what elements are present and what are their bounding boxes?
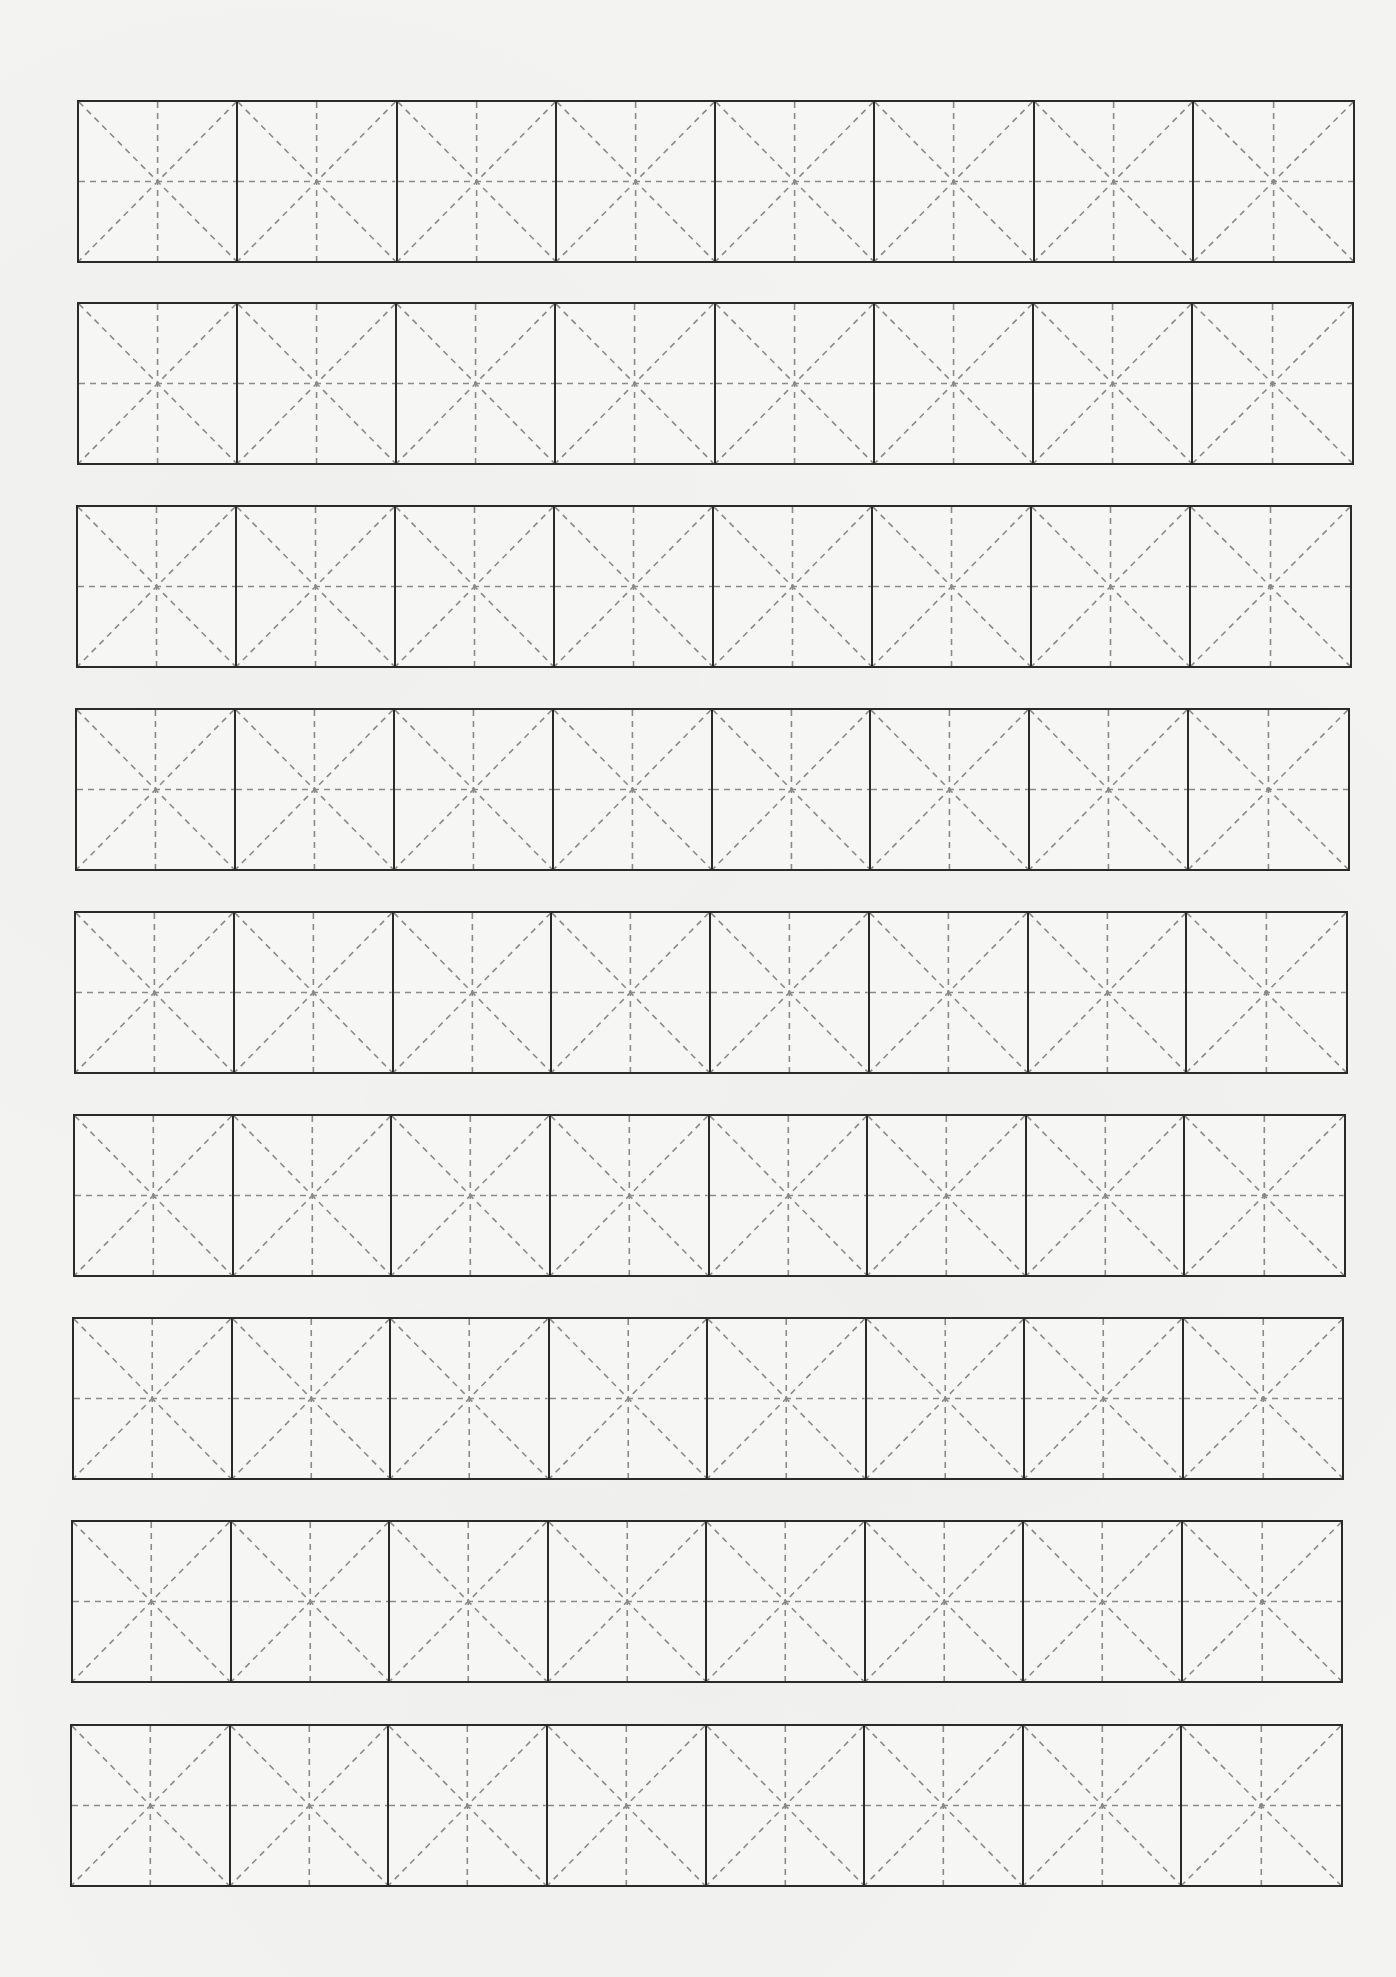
writing-cell[interactable]: [1185, 1116, 1344, 1275]
mi-grid-guide-icon: [235, 913, 392, 1072]
writing-cell[interactable]: [1025, 1319, 1184, 1478]
writing-cell[interactable]: [73, 1522, 232, 1681]
mi-grid-guide-icon: [75, 1116, 232, 1275]
mi-grid-guide-icon: [1189, 710, 1348, 869]
writing-cell[interactable]: [873, 507, 1032, 666]
mi-grid-guide-icon: [392, 1116, 549, 1275]
mi-grid-guide-icon: [875, 102, 1032, 261]
writing-cell[interactable]: [1024, 1522, 1183, 1681]
writing-cell[interactable]: [398, 102, 557, 261]
mi-grid-guide-icon: [79, 102, 236, 261]
writing-cell[interactable]: [78, 507, 237, 666]
writing-cell[interactable]: [237, 507, 396, 666]
mi-grid-guide-icon: [237, 507, 394, 666]
writing-cell[interactable]: [75, 1116, 234, 1275]
mi-grid-guide-icon: [1034, 304, 1191, 463]
writing-cell[interactable]: [711, 913, 870, 1072]
writing-cell[interactable]: [1029, 913, 1188, 1072]
writing-cell[interactable]: [867, 1319, 1026, 1478]
writing-cell[interactable]: [1189, 710, 1348, 869]
writing-cell[interactable]: [870, 913, 1029, 1072]
writing-cell[interactable]: [1027, 1116, 1186, 1275]
writing-cell[interactable]: [394, 913, 553, 1072]
writing-cell[interactable]: [392, 1116, 551, 1275]
writing-cell[interactable]: [1191, 507, 1350, 666]
writing-cell[interactable]: [549, 1522, 708, 1681]
mi-grid-guide-icon: [866, 1522, 1023, 1681]
writing-cell[interactable]: [557, 102, 716, 261]
writing-cell[interactable]: [79, 304, 238, 463]
writing-cell[interactable]: [234, 1116, 393, 1275]
mi-grid-guide-icon: [868, 1116, 1025, 1275]
writing-cell[interactable]: [716, 304, 875, 463]
mi-grid-guide-icon: [711, 913, 868, 1072]
writing-cell[interactable]: [866, 1522, 1025, 1681]
writing-cell[interactable]: [714, 507, 873, 666]
writing-cell[interactable]: [708, 1319, 867, 1478]
writing-cell[interactable]: [1034, 304, 1193, 463]
writing-cell[interactable]: [548, 1726, 707, 1885]
writing-cell[interactable]: [713, 710, 872, 869]
mi-grid-guide-icon: [391, 1319, 548, 1478]
writing-cell[interactable]: [707, 1522, 866, 1681]
writing-cell[interactable]: [232, 1522, 391, 1681]
mi-grid-guide-icon: [554, 710, 711, 869]
writing-cell[interactable]: [556, 304, 715, 463]
writing-cell[interactable]: [74, 1319, 233, 1478]
writing-cell[interactable]: [871, 710, 1030, 869]
mi-grid-guide-icon: [233, 1319, 390, 1478]
writing-cell[interactable]: [236, 710, 395, 869]
writing-cell[interactable]: [1182, 1726, 1341, 1885]
writing-cell[interactable]: [77, 710, 236, 869]
writing-cell[interactable]: [1024, 1726, 1183, 1885]
mi-grid-guide-icon: [1185, 1116, 1344, 1275]
writing-cell[interactable]: [555, 507, 714, 666]
writing-cell[interactable]: [1194, 102, 1353, 261]
writing-cell[interactable]: [865, 1726, 1024, 1885]
mi-grid-guide-icon: [1183, 1522, 1342, 1681]
mi-grid-guide-icon: [713, 710, 870, 869]
mi-grid-guide-icon: [1024, 1522, 1181, 1681]
grid-row: [77, 100, 1355, 263]
writing-cell[interactable]: [390, 1522, 549, 1681]
writing-cell[interactable]: [1183, 1522, 1342, 1681]
writing-cell[interactable]: [707, 1726, 866, 1885]
mi-grid-guide-icon: [234, 1116, 391, 1275]
writing-cell[interactable]: [76, 913, 235, 1072]
writing-cell[interactable]: [1184, 1319, 1343, 1478]
mi-grid-guide-icon: [389, 1726, 546, 1885]
mi-grid-guide-icon: [865, 1726, 1022, 1885]
writing-cell[interactable]: [238, 102, 397, 261]
mi-grid-guide-icon: [1035, 102, 1192, 261]
grid-row: [73, 1114, 1346, 1277]
mi-grid-guide-icon: [1191, 507, 1350, 666]
mi-grid-guide-icon: [238, 102, 395, 261]
writing-cell[interactable]: [875, 102, 1034, 261]
writing-cell[interactable]: [391, 1319, 550, 1478]
writing-cell[interactable]: [1032, 507, 1191, 666]
mi-grid-guide-icon: [236, 710, 393, 869]
writing-cell[interactable]: [552, 913, 711, 1072]
writing-cell[interactable]: [1030, 710, 1189, 869]
writing-cell[interactable]: [389, 1726, 548, 1885]
writing-cell[interactable]: [397, 304, 556, 463]
writing-cell[interactable]: [231, 1726, 390, 1885]
writing-cell[interactable]: [551, 1116, 710, 1275]
writing-cell[interactable]: [554, 710, 713, 869]
mi-grid-guide-icon: [1184, 1319, 1343, 1478]
writing-cell[interactable]: [233, 1319, 392, 1478]
writing-cell[interactable]: [79, 102, 238, 261]
writing-cell[interactable]: [1035, 102, 1194, 261]
writing-cell[interactable]: [395, 710, 554, 869]
writing-cell[interactable]: [550, 1319, 709, 1478]
writing-cell[interactable]: [235, 913, 394, 1072]
writing-cell[interactable]: [868, 1116, 1027, 1275]
writing-cell[interactable]: [72, 1726, 231, 1885]
writing-cell[interactable]: [875, 304, 1034, 463]
writing-cell[interactable]: [1187, 913, 1346, 1072]
writing-cell[interactable]: [716, 102, 875, 261]
writing-cell[interactable]: [396, 507, 555, 666]
writing-cell[interactable]: [1193, 304, 1352, 463]
writing-cell[interactable]: [710, 1116, 869, 1275]
writing-cell[interactable]: [238, 304, 397, 463]
